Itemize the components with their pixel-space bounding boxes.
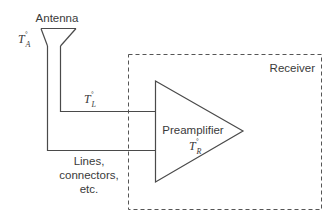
svg-text:Lines,: Lines,: [74, 155, 105, 167]
svg-text:L: L: [91, 100, 97, 109]
svg-text:°: °: [25, 31, 28, 38]
svg-text:R: R: [196, 147, 202, 156]
antenna-temperature: T A °: [18, 31, 31, 49]
preamplifier-label: Preamplifier: [162, 124, 224, 136]
receiver-label: Receiver: [270, 62, 316, 74]
noise-temperature-diagram: Receiver Antenna T A ° T L ° Lines, conn…: [0, 0, 336, 218]
svg-text:connectors,: connectors,: [59, 169, 118, 181]
svg-text:°: °: [91, 91, 94, 98]
lines-connectors-label: Lines, connectors, etc.: [59, 155, 118, 195]
svg-text:A: A: [25, 40, 31, 49]
antenna-label: Antenna: [36, 12, 79, 24]
svg-text:°: °: [196, 138, 199, 145]
svg-text:etc.: etc.: [80, 183, 99, 195]
line-temperature: T L °: [84, 91, 97, 109]
transmission-lines: [48, 46, 156, 151]
antenna-icon: [41, 29, 76, 47]
